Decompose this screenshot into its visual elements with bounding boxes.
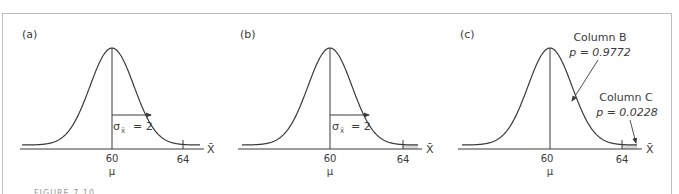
panel-b: (b) σ X̄ = 2 60 μ 64 X̄ [238,28,434,177]
panel-c-mean-label: 60 [541,153,554,164]
annotation-column-b-arrow [572,60,598,101]
panel-b-axis-label: X̄ [426,143,434,156]
panel-a-mean-label: 60 [106,153,119,164]
panel-a-sigma-value: = 2 [133,120,153,133]
annotation-column-b-title: Column B [573,31,626,44]
panel-c-mu-label: μ [547,166,554,177]
panel-b-mean-label: 60 [324,153,337,164]
annotation-column-c-title: Column C [599,91,653,104]
panel-a-label: (a) [22,28,37,41]
panel-a-curve [22,48,200,145]
panel-a-sigma-sub: X̄ [121,127,125,134]
annotation-column-c-value: p = 0.0228 [595,106,658,119]
panel-b-tick-label: 64 [397,154,410,165]
panel-b-sigma-value: = 2 [351,120,371,133]
annotation-column-b-value: p = 0.9772 [568,46,631,59]
figure-svg: (a) σ X̄ = 2 60 μ 64 X̄ (b) σ X̄ = 2 [0,0,679,194]
panel-a-sigma-symbol: σ [113,120,120,133]
panel-b-mu-label: μ [327,166,334,177]
panel-c-label: (c) [460,28,475,41]
panel-b-sigma-symbol: σ [332,120,339,133]
panel-b-sigma-sub: X̄ [340,127,344,134]
panel-c-axis-label: X̄ [646,143,654,156]
panel-a: (a) σ X̄ = 2 60 μ 64 X̄ [20,28,215,177]
panel-c: (c) Column B p = 0.9772 Column C p = 0.0… [458,28,658,177]
panel-b-label: (b) [240,28,256,41]
panel-a-mu-label: μ [109,166,116,177]
panel-a-axis-label: X̄ [207,143,215,156]
annotation-column-c-arrow [630,120,636,143]
panel-a-tick-label: 64 [177,154,190,165]
figure: (a) σ X̄ = 2 60 μ 64 X̄ (b) σ X̄ = 2 [0,0,679,194]
panel-c-tick-label: 64 [616,154,629,165]
figure-caption-cut: FIGURE 7.10 [34,189,95,194]
